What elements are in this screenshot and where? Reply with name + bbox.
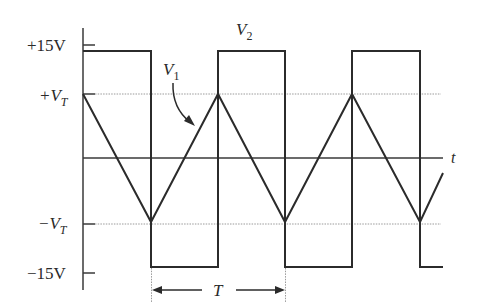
waveform-diagram: +15V +VT −VT −15V V2 V1 t T [0,0,479,307]
period-arrow-right-icon [275,286,285,294]
label-minus-15v: −15V [27,264,67,283]
label-minus-vt: −VT [38,214,68,237]
square-wave-v2 [83,51,443,267]
period-arrow-left-icon [152,286,162,294]
v1-pointer-arrow [173,83,190,122]
label-v2: V2 [236,20,252,43]
v1-arrowhead-icon [184,115,195,126]
label-time-axis: t [451,149,456,166]
label-plus-vt: +VT [39,86,69,109]
label-plus-15v: +15V [27,36,67,55]
label-v1: V1 [163,60,179,83]
label-period: T [213,281,224,300]
